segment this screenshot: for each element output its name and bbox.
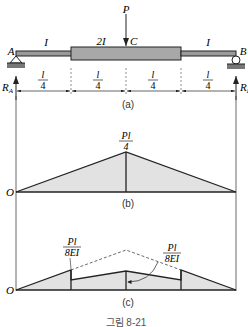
panel-a-label: (a): [122, 99, 134, 110]
peak-denominator: 4: [124, 141, 129, 152]
svg-text:l: l: [97, 69, 100, 80]
support-a-label: A: [7, 45, 15, 57]
beam-segment-middle: [71, 47, 181, 60]
panel-b-moment-diagram: O Pl 4 (b): [6, 130, 236, 209]
inertia-label-right: I: [205, 36, 211, 48]
pin-support-icon: [7, 56, 25, 68]
vertical-guide-lines: [16, 96, 236, 291]
beam-segment-left: [16, 51, 72, 56]
peak-numerator: Pl: [121, 130, 131, 141]
point-c-label: C: [130, 35, 138, 47]
svg-text:4: 4: [41, 80, 46, 91]
svg-text:l: l: [42, 69, 45, 80]
beam-diagram-figure: P C I 2I I A B RA RB: [0, 0, 248, 327]
panel-b-label: (b): [122, 198, 134, 209]
support-b-label: B: [240, 45, 247, 57]
beam-segment-right: [181, 51, 236, 56]
reaction-a-label: RA: [1, 81, 14, 95]
left-value-denominator: 8EI: [65, 247, 80, 258]
svg-text:4: 4: [206, 80, 211, 91]
svg-text:4: 4: [96, 80, 101, 91]
right-value-denominator: 8EI: [165, 253, 180, 264]
right-value-numerator: Pl: [167, 242, 177, 253]
roller-support-icon: [227, 56, 245, 69]
origin-label-c: O: [6, 284, 14, 296]
svg-text:l: l: [207, 69, 210, 80]
load-label: P: [122, 3, 130, 15]
svg-text:4: 4: [151, 80, 156, 91]
inertia-label-middle: 2I: [96, 35, 107, 47]
panel-c-m-ei-diagram: O Pl 8EI Pl 8EI (c): [6, 236, 236, 308]
panel-a-beam: P C I 2I I A B RA RB: [1, 3, 248, 110]
dimension-fractions: l 4 l 4 l 4 l 4: [38, 69, 213, 91]
origin-label-b: O: [6, 186, 14, 198]
panel-c-label: (c): [122, 297, 134, 308]
svg-text:l: l: [152, 69, 155, 80]
left-value-numerator: Pl: [67, 236, 77, 247]
figure-caption: 그림 8-21: [106, 317, 147, 327]
dimension-extension-lines: [71, 68, 181, 94]
inertia-label-left: I: [43, 36, 49, 48]
reaction-b-label: RB: [239, 81, 248, 95]
